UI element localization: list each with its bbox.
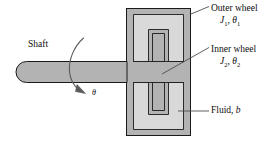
figure-canvas: Shaft θ Outer wheel J1, θ1 Inner wheel J… xyxy=(0,0,279,144)
label-outer-wheel-symbols: J1, θ1 xyxy=(220,15,240,27)
rotor-hub xyxy=(133,62,184,83)
rotor-vane-upper xyxy=(153,34,165,62)
label-inner-wheel-symbols: J2, θ2 xyxy=(220,56,240,68)
label-rotation-angle: θ xyxy=(92,89,96,98)
leader-line-outer-wheel xyxy=(191,7,209,15)
label-fluid: Fluid, b xyxy=(211,105,241,116)
fluid-damping-symbol: b xyxy=(236,105,241,115)
rotation-arrowhead xyxy=(76,85,86,94)
inner-angle-subscript: 2 xyxy=(237,61,240,68)
label-outer-wheel: Outer wheel xyxy=(211,3,258,14)
label-inner-wheel: Inner wheel xyxy=(211,44,256,55)
rotor-vane-lower xyxy=(153,83,165,111)
fluid-name-text: Fluid xyxy=(211,105,231,115)
label-shaft: Shaft xyxy=(28,39,48,50)
outer-angle-subscript: 1 xyxy=(237,20,240,27)
